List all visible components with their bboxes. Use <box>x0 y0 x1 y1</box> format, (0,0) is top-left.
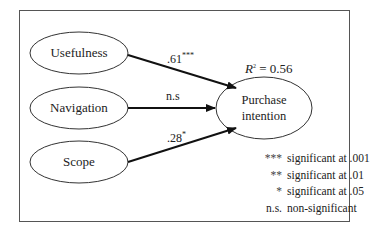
usefulness-label: Usefulness <box>30 45 128 61</box>
scope-label: Scope <box>30 154 128 170</box>
legend-row-05: *significant at .05 <box>256 183 370 200</box>
purchase-intention-line1: Purchase <box>216 92 312 108</box>
purchase-intention-label: Purchase intention <box>216 92 312 124</box>
usefulness-coefficient: .61*** <box>167 51 194 67</box>
legend-row-ns: n.s.non-significant <box>256 200 370 217</box>
usefulness-significance: *** <box>182 51 194 60</box>
navigation-label: Navigation <box>30 100 128 116</box>
purchase-intention-line2: intention <box>216 108 312 124</box>
scope-coefficient: .28* <box>167 130 186 146</box>
legend-row-001: ***significant at .001 <box>256 150 370 167</box>
navigation-coefficient: n.s <box>166 89 180 104</box>
r-squared-label: R2 = 0.56 <box>245 61 293 77</box>
legend-row-01: **significant at .01 <box>256 167 370 184</box>
significance-legend: ***significant at .001 **significant at … <box>256 150 370 216</box>
scope-significance: * <box>182 130 186 139</box>
